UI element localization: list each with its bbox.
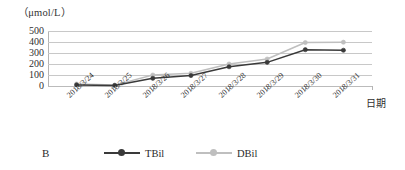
- panel-label: B: [42, 147, 49, 159]
- y-tick-label-500: 500: [0, 26, 44, 36]
- series-layer: [48, 31, 372, 86]
- data-point-tbil-3: [189, 73, 193, 77]
- plot-area: [48, 31, 372, 86]
- legend-item-dbil[interactable]: DBil: [196, 146, 257, 160]
- data-point-tbil-4: [227, 65, 231, 69]
- gridline-0: [48, 86, 372, 87]
- legend-label-tbil: TBil: [145, 148, 164, 159]
- y-tick-label-300: 300: [0, 48, 44, 58]
- data-point-tbil-6: [303, 48, 307, 52]
- data-point-tbil-7: [341, 48, 345, 52]
- data-point-tbil-5: [265, 60, 269, 64]
- data-point-dbil-7: [341, 40, 345, 44]
- legend-marker-dbil: [196, 148, 232, 158]
- chart-container: （μmol/L） 5004003002001000 日期 B TBil DBil…: [0, 0, 405, 170]
- legend-label-dbil: DBil: [237, 148, 257, 159]
- y-tick-label-200: 200: [0, 59, 44, 69]
- legend-marker-tbil: [104, 148, 140, 158]
- data-point-dbil-6: [303, 40, 307, 44]
- chart-legend: B TBil DBil: [0, 144, 405, 166]
- legend-item-tbil[interactable]: TBil: [104, 146, 164, 160]
- y-tick-label-400: 400: [0, 37, 44, 47]
- x-tick-end: [372, 86, 373, 90]
- x-axis-title: 日期: [366, 95, 386, 110]
- y-tick-label-100: 100: [0, 70, 44, 80]
- y-tick-label-0: 0: [0, 81, 44, 91]
